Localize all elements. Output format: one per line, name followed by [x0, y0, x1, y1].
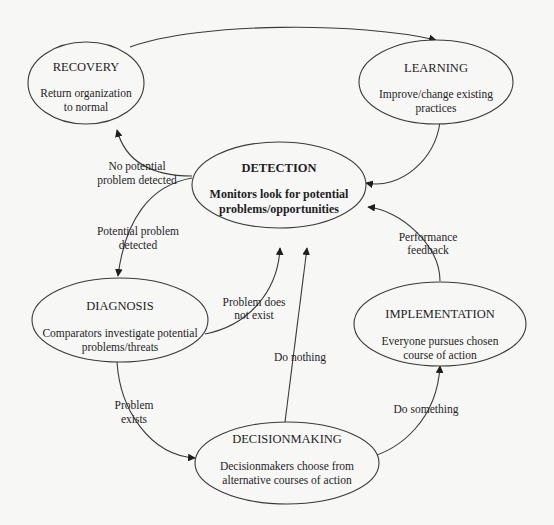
node-recovery: RECOVERY Return organization to normal	[28, 42, 144, 124]
edge-label-potential-problem-line2: detected	[119, 239, 158, 251]
edge-label-no-problem-line1: No potential	[108, 160, 165, 173]
edge-label-problem-not-exist-line1: Problem does	[223, 296, 286, 308]
node-implementation-title: IMPLEMENTATION	[385, 307, 494, 321]
node-decisionmaking-desc-line2: alternative courses of action	[222, 474, 352, 486]
node-diagnosis: DIAGNOSIS Comparators investigate potent…	[32, 278, 208, 362]
edge-label-problem-exists-line1: Problem	[115, 399, 154, 411]
edge-label-problem-exists-line2: exists	[121, 413, 148, 425]
node-learning-title: LEARNING	[404, 61, 468, 75]
edge-label-do-nothing: Do nothing	[274, 351, 326, 364]
node-decisionmaking-desc-line1: Decisionmakers choose from	[220, 460, 354, 472]
node-implementation-desc-line1: Everyone pursues chosen	[382, 335, 499, 348]
node-diagnosis-desc-line2: problems/threats	[82, 341, 159, 354]
node-detection: DETECTION Monitors look for potential pr…	[192, 142, 366, 228]
edge-label-no-problem-line2: problem detected	[97, 174, 177, 187]
edge-label-performance-feedback-line1: Performance	[399, 231, 458, 243]
node-learning-desc-line2: practices	[416, 102, 457, 115]
crisis-cycle-diagram: RECOVERY Return organization to normal L…	[0, 0, 554, 525]
node-recovery-desc-line1: Return organization	[40, 87, 132, 100]
node-implementation-desc-line2: course of action	[403, 349, 477, 361]
node-implementation: IMPLEMENTATION Everyone pursues chosen c…	[354, 282, 526, 366]
node-detection-desc-line2: problems/opportunities	[219, 202, 339, 216]
node-decisionmaking: DECISIONMAKING Decisionmakers choose fro…	[195, 422, 379, 504]
node-learning: LEARNING Improve/change existing practic…	[359, 40, 513, 124]
node-recovery-title: RECOVERY	[53, 60, 120, 74]
node-diagnosis-title: DIAGNOSIS	[86, 299, 153, 313]
edge-label-potential-problem-line1: Potential problem	[97, 225, 179, 238]
edge-label-no-problem: No potential problem detected	[97, 160, 177, 187]
node-decisionmaking-title: DECISIONMAKING	[232, 432, 342, 446]
edge-label-performance-feedback: Performance feedback	[399, 231, 458, 256]
edge-label-performance-feedback-line2: feedback	[407, 244, 449, 256]
node-diagnosis-desc-line1: Comparators investigate potential	[42, 327, 197, 340]
node-detection-desc-line1: Monitors look for potential	[210, 187, 349, 201]
node-detection-title: DETECTION	[241, 161, 316, 175]
edge-label-do-something: Do something	[394, 403, 459, 416]
node-recovery-desc-line2: to normal	[64, 101, 108, 113]
edge-label-problem-not-exist-line2: not exist	[234, 309, 274, 321]
node-learning-desc-line1: Improve/change existing	[379, 88, 493, 101]
